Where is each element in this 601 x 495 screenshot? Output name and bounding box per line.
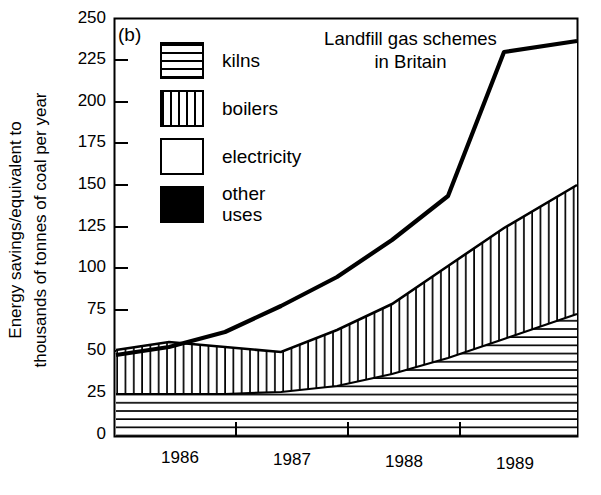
legend: kilns boilers electricity other uses [160,36,301,228]
legend-item-other-uses: other uses [160,180,301,228]
legend-label-electricity: electricity [222,146,301,167]
chart-title-line2: in Britain [283,50,538,73]
legend-label-kilns: kilns [222,50,260,71]
legend-item-electricity: electricity [160,132,301,180]
chart-figure: Energy savings/equivalent to thousands o… [0,0,601,495]
legend-item-boilers: boilers [160,84,301,132]
panel-label: (b) [118,24,141,46]
chart-title: Landfill gas schemes in Britain [283,27,538,73]
legend-label-other-uses-line1: other [222,183,265,204]
legend-label-boilers: boilers [222,98,278,119]
legend-swatch-electricity-icon [160,138,204,175]
legend-swatch-kilns-icon [160,42,204,79]
legend-item-kilns: kilns [160,36,301,84]
legend-label-other-uses: other uses [222,183,265,225]
legend-swatch-other-uses-icon [160,186,204,223]
chart-title-line1: Landfill gas schemes [283,27,538,50]
legend-label-other-uses-line2: uses [222,204,265,225]
legend-swatch-boilers-icon [160,90,204,127]
